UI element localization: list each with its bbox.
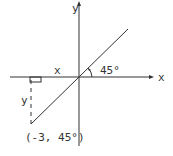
right-angle-marker: [30, 77, 41, 82]
polar-diagram: y x x y 45° (-3, 45°): [0, 0, 173, 156]
x-axis-label: x: [158, 71, 165, 84]
angle-label: 45°: [100, 64, 120, 77]
horizontal-leg-label: x: [54, 64, 61, 77]
vertical-leg-label: y: [21, 94, 28, 107]
x-axis-arrow-icon: [149, 75, 154, 79]
point-label: (-3, 45°): [25, 131, 85, 144]
y-axis-label: y: [72, 2, 79, 15]
